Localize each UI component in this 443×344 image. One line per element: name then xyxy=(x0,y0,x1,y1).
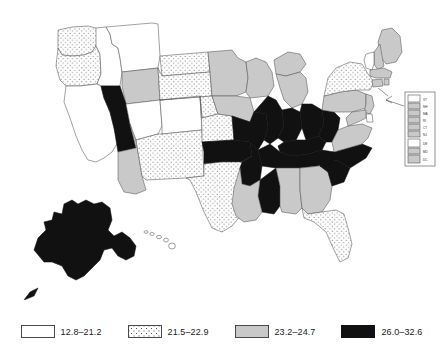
state-MI[interactable] xyxy=(274,52,306,76)
legend-swatch-class-4 xyxy=(341,325,375,338)
legend-item-class-1[interactable]: 12.8–21.2 xyxy=(21,325,102,338)
legend-swatch-class-1 xyxy=(21,325,55,338)
state-AL[interactable] xyxy=(276,168,302,214)
state-AK[interactable] xyxy=(24,200,136,300)
inset-label-3: RI xyxy=(423,119,426,123)
legend-label-class-2: 21.5–22.9 xyxy=(168,327,209,337)
inset-label-8: DC xyxy=(423,158,428,162)
state-HI[interactable] xyxy=(144,231,175,249)
inset-label-1: NH xyxy=(423,105,427,109)
legend-label-class-1: 12.8–21.2 xyxy=(61,327,102,337)
state-CO[interactable] xyxy=(160,96,202,134)
state-WI[interactable] xyxy=(246,58,274,98)
state-GA[interactable] xyxy=(300,166,332,214)
state-MN[interactable] xyxy=(208,50,248,96)
legend-item-class-2[interactable]: 21.5–22.9 xyxy=(128,325,209,338)
legend-item-class-3[interactable]: 23.2–24.7 xyxy=(235,325,316,338)
state-MI2[interactable] xyxy=(276,72,308,108)
state-WA[interactable] xyxy=(58,26,98,56)
legend-label-class-3: 23.2–24.7 xyxy=(275,327,316,337)
state-MS[interactable] xyxy=(258,168,280,214)
legend-item-class-4[interactable]: 26.0–32.6 xyxy=(341,325,422,338)
inset-label-5: NJ xyxy=(423,133,427,137)
state-DE[interactable] xyxy=(366,114,373,122)
inset-label-7: MD xyxy=(423,150,429,154)
inset-label-4: CT xyxy=(423,126,427,130)
state-CT[interactable] xyxy=(372,79,383,87)
state-FL[interactable] xyxy=(302,208,352,262)
legend-swatch-class-2 xyxy=(128,325,162,338)
inset-label-6: DE xyxy=(423,142,427,146)
state-NM[interactable] xyxy=(136,130,204,180)
choropleth-figure: VT NH MA RI CT NJ DE MD DC 12.8–21.2 xyxy=(0,0,443,344)
state-WY[interactable] xyxy=(122,68,160,104)
northeast-inset[interactable]: VT NH MA RI CT NJ DE MD DC xyxy=(378,88,435,166)
inset-label-0: VT xyxy=(423,98,427,102)
state-RI[interactable] xyxy=(384,79,389,85)
state-VT[interactable] xyxy=(364,52,374,70)
legend-label-class-4: 26.0–32.6 xyxy=(381,327,422,337)
map-legend: 12.8–21.2 21.5–22.9 23.2–24.7 26.0–32.6 xyxy=(0,325,443,338)
us-map[interactable]: VT NH MA RI CT NJ DE MD DC xyxy=(0,0,443,300)
state-MD[interactable] xyxy=(346,110,366,126)
legend-swatch-class-3 xyxy=(235,325,269,338)
state-MA[interactable] xyxy=(370,68,392,78)
